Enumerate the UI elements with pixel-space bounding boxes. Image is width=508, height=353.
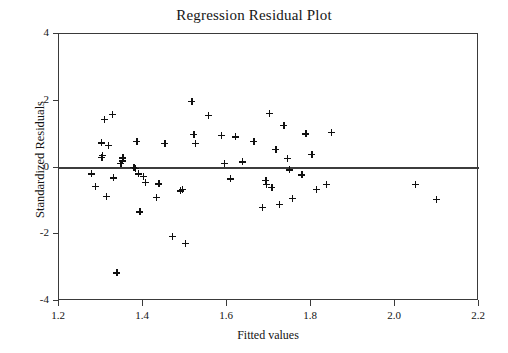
scatter-point xyxy=(221,160,228,167)
scatter-point xyxy=(323,181,330,188)
scatter-point xyxy=(289,195,296,202)
x-axis-tick-label: 1.2 xyxy=(38,309,78,321)
scatter-point xyxy=(103,193,110,200)
scatter-point xyxy=(109,111,116,118)
scatter-point xyxy=(98,139,105,146)
scatter-point xyxy=(328,129,335,136)
scatter-point xyxy=(205,112,212,119)
scatter-point xyxy=(169,233,176,240)
scatter-point xyxy=(272,146,279,153)
scatter-point xyxy=(182,240,189,247)
scatter-point xyxy=(101,116,108,123)
y-axis-tick-label: 0 xyxy=(19,160,49,172)
scatter-point xyxy=(268,184,275,191)
scatter-point xyxy=(280,122,287,129)
scatter-point xyxy=(105,142,112,149)
scatter-point xyxy=(250,138,257,145)
scatter-point xyxy=(298,171,305,178)
scatter-point xyxy=(92,183,99,190)
scatter-point xyxy=(302,130,309,137)
y-axis-tick-label: -2 xyxy=(19,226,49,238)
y-axis-tick-label: 2 xyxy=(19,93,49,105)
scatter-point xyxy=(153,194,160,201)
scatter-point xyxy=(113,269,120,276)
scatter-point xyxy=(266,110,273,117)
scatter-point xyxy=(188,98,195,105)
y-axis-tick-label: 4 xyxy=(19,26,49,38)
chart-title: Regression Residual Plot xyxy=(0,7,508,24)
scatter-point xyxy=(119,154,126,161)
regression-residual-plot-figure: Regression Residual Plot Standardized Re… xyxy=(0,0,508,353)
scatter-point xyxy=(313,186,320,193)
plot-area xyxy=(58,33,478,300)
scatter-point xyxy=(136,208,143,215)
scatter-point xyxy=(179,186,186,193)
scatter-point xyxy=(99,152,106,159)
x-axis-tick-label: 1.6 xyxy=(206,309,246,321)
scatter-point xyxy=(142,179,149,186)
x-axis-title: Fitted values xyxy=(58,328,478,343)
x-axis-tick-label: 1.8 xyxy=(290,309,330,321)
y-axis-tick-label: -4 xyxy=(19,293,49,305)
scatter-point xyxy=(155,180,162,187)
x-axis-tick-label: 2.0 xyxy=(374,309,414,321)
scatter-point xyxy=(232,133,239,140)
scatter-point xyxy=(133,138,140,145)
scatter-point xyxy=(433,196,440,203)
scatter-point xyxy=(239,158,246,165)
scatter-point xyxy=(110,174,117,181)
scatter-point xyxy=(190,131,197,138)
scatter-point xyxy=(412,181,419,188)
scatter-point xyxy=(284,155,291,162)
scatter-point xyxy=(276,201,283,208)
scatter-point xyxy=(88,170,95,177)
scatter-point xyxy=(259,204,266,211)
scatter-point xyxy=(227,175,234,182)
scatter-point xyxy=(308,151,315,158)
scatter-point xyxy=(161,140,168,147)
x-axis-tick-label: 2.2 xyxy=(458,309,498,321)
x-axis-tick-label: 1.4 xyxy=(122,309,162,321)
scatter-point xyxy=(192,140,199,147)
scatter-point xyxy=(218,132,225,139)
scatter-point xyxy=(286,166,293,173)
scatter-points-layer xyxy=(59,34,479,301)
